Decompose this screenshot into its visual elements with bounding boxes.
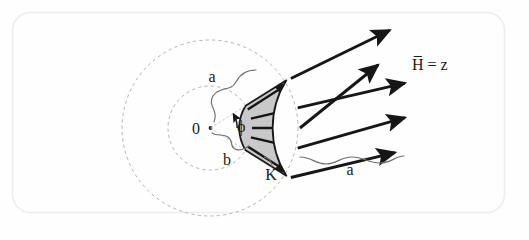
inner-radius-label: b [223, 151, 231, 168]
outer-arrow-1 [291, 30, 390, 78]
outer-arrow-5 [291, 153, 395, 178]
surface-current-label: K [265, 166, 277, 183]
outer-radius-label: a [208, 68, 215, 85]
diagram-svg: 0 ϕ a b K a H̅ = z [0, 0, 529, 240]
outer-arrow-4 [298, 118, 405, 149]
angle-label: ϕ [237, 118, 245, 136]
field-label: H̅ = z [412, 56, 448, 73]
figure-canvas: 0 ϕ a b K a H̅ = z [0, 0, 529, 240]
origin-label: 0 [192, 120, 200, 137]
right-length-label: a [346, 161, 353, 178]
outer-arrow-3 [300, 65, 378, 128]
outer-field-arrows [291, 30, 405, 177]
